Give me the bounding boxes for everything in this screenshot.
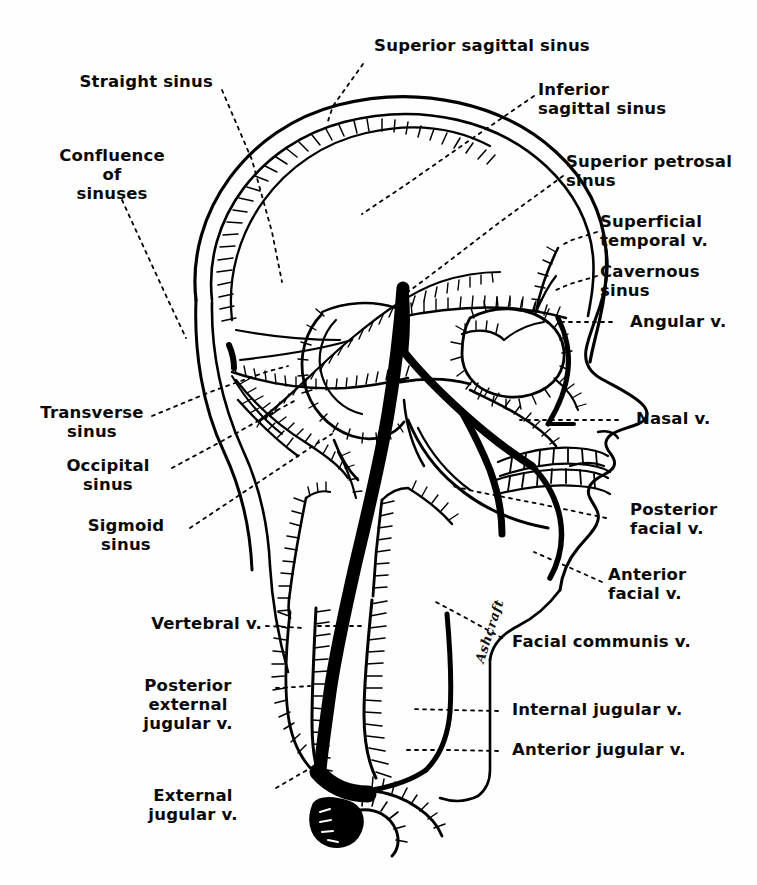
label-superior-sagittal-sinus: Superior sagittal sinus: [358, 36, 606, 55]
leader-posterior-external-jugular-v: [276, 686, 310, 688]
leader-occipital-sinus: [172, 400, 296, 468]
posterior-neck-outline: [212, 302, 270, 566]
leader-anterior-jugular-v: [404, 750, 498, 751]
label-occipital-sinus: Occipital sinus: [44, 456, 172, 494]
label-inferior-sagittal-sinus: Inferior sagittal sinus: [538, 80, 748, 118]
neck-vein-branch-upper: [382, 488, 408, 500]
neck-front-lower: [440, 796, 478, 801]
neck-vein-middle-upper: [373, 500, 382, 596]
leader-superior-sagittal-sinus: [327, 64, 363, 124]
anatomical-figure: Superior sagittal sinus Straight sinus C…: [0, 0, 757, 885]
label-anterior-jugular-v: Anterior jugular v.: [512, 740, 757, 759]
label-anterior-facial-v: Anterior facial v.: [608, 565, 748, 603]
retromandibular-hatching: [412, 481, 458, 520]
anterior-jugular-vein: [426, 614, 451, 770]
label-internal-jugular-v: Internal jugular v.: [512, 700, 757, 719]
label-confluence-of-sinuses: Confluence of sinuses: [24, 146, 200, 203]
label-nasal-v: Nasal v.: [636, 409, 756, 428]
superior-sagittal-sinus-vessel: [231, 127, 490, 320]
petrous-ridge: [322, 303, 396, 312]
leader-straight-sinus: [222, 90, 282, 282]
label-straight-sinus: Straight sinus: [28, 72, 213, 91]
leader-vertebral-v: [266, 626, 302, 628]
leader-transverse-sinus: [152, 366, 288, 416]
label-transverse-sinus: Transverse sinus: [28, 403, 156, 441]
label-posterior-external-jugular-v: Posterior external jugular v.: [108, 676, 268, 733]
label-posterior-facial-v: Posterior facial v.: [630, 500, 757, 538]
vertebral-vein-hatching: [278, 498, 305, 611]
label-facial-communis-v: Facial communis v.: [512, 632, 757, 651]
leader-anterior-facial-v: [534, 552, 602, 582]
occipital-outline: [196, 300, 252, 570]
jugular-terminal-bulb: [311, 799, 363, 847]
label-angular-v: Angular v.: [630, 312, 757, 331]
internal-jugular-vein: [320, 288, 403, 770]
confluence-of-sinuses-node: [229, 345, 234, 368]
leader-cavernous-sinus: [556, 276, 597, 290]
label-vertebral-v: Vertebral v.: [60, 614, 262, 633]
cavernous-sinus-vessel: [462, 331, 504, 340]
mandible-inner: [418, 428, 470, 490]
vertebral-vein: [289, 498, 307, 618]
orbit-hatching: [451, 296, 572, 409]
tentorium-line: [240, 340, 352, 360]
leader-confluence-of-sinuses: [122, 200, 186, 338]
jugular-bulb: [318, 772, 368, 794]
leader-posterior-facial-v: [452, 486, 606, 518]
inferior-sagittal-sinus-vessel: [260, 272, 500, 420]
superior-sagittal-sinus-hatching: [217, 119, 495, 321]
posterior-external-jugular-vein: [286, 612, 314, 772]
label-superior-petrosal-sinus: Superior petrosal sinus: [566, 152, 756, 190]
label-superficial-temporal-v: Superficial temporal v.: [600, 212, 757, 250]
superficial-temporal-hatching: [529, 247, 556, 311]
label-sigmoid-sinus: Sigmoid sinus: [62, 516, 190, 554]
leader-superior-petrosal-sinus: [408, 176, 563, 292]
leader-sigmoid-sinus: [190, 434, 332, 528]
throat-outline: [478, 660, 490, 796]
internal-jugular-vein-upper: [404, 288, 406, 350]
label-cavernous-sinus: Cavernous sinus: [600, 262, 750, 300]
label-external-jugular-v: External jugular v.: [118, 786, 268, 824]
frontal-vessel: [504, 322, 544, 340]
leader-internal-jugular-v: [412, 709, 498, 711]
